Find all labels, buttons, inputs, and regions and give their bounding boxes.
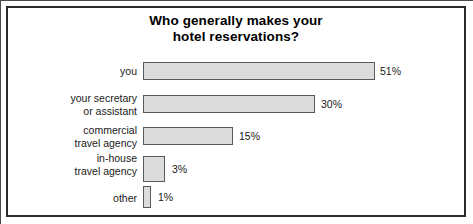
category-label-line: travel agency [17, 137, 137, 150]
category-label-your-secretary-or-assistant: your secretary or assistant [17, 92, 137, 117]
category-label-line: in-house [17, 152, 137, 165]
bar-other [143, 186, 151, 208]
category-label-line: travel agency [17, 165, 137, 178]
chart-title: Who generally makes your hotel reservati… [6, 13, 466, 44]
category-label-line: you [17, 65, 137, 78]
value-label-you: 51% [380, 62, 401, 80]
outer-rule-top [0, 0, 473, 1]
category-label-you: you [17, 65, 137, 78]
category-label-commercial-travel-agency: commercial travel agency [17, 124, 137, 149]
category-label-other: other [17, 192, 137, 205]
plot-area: you 51% your secretary or assistant 30% … [0, 56, 473, 211]
chart-title-line-2: hotel reservations? [6, 29, 466, 45]
bar-track [143, 62, 375, 80]
bar-track [143, 156, 165, 182]
value-label-your-secretary-or-assistant: 30% [321, 95, 342, 113]
bar-track [143, 127, 233, 145]
category-label-line: or assistant [17, 105, 137, 118]
bar-commercial-travel-agency [143, 127, 233, 145]
bar-track [143, 95, 315, 113]
category-label-line: commercial [17, 124, 137, 137]
value-label-in-house-travel-agency: 3% [172, 156, 187, 182]
value-label-other: 1% [158, 186, 173, 208]
bar-you [143, 62, 375, 80]
category-label-line: other [17, 192, 137, 205]
bar-in-house-travel-agency [143, 156, 165, 182]
chart-title-line-1: Who generally makes your [6, 13, 466, 29]
bar-track [143, 186, 151, 208]
category-label-in-house-travel-agency: in-house travel agency [17, 152, 137, 177]
value-label-commercial-travel-agency: 15% [239, 127, 260, 145]
bar-your-secretary-or-assistant [143, 95, 315, 113]
category-label-line: your secretary [17, 92, 137, 105]
chart-container: Who generally makes your hotel reservati… [0, 0, 473, 224]
